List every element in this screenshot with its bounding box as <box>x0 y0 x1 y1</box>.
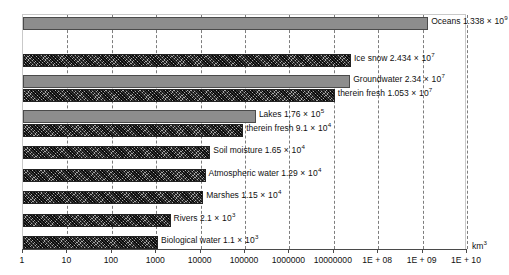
bar-value-label: Lakes 1.76 × 105 <box>259 108 324 121</box>
x-axis-tick <box>200 249 201 253</box>
bar-value-mantissa: 1.053 <box>387 88 408 98</box>
bar[interactable] <box>23 214 171 227</box>
bar-value-label: Ice snow 2.434 × 107 <box>354 52 435 65</box>
bar[interactable] <box>23 169 206 182</box>
x-axis-tick <box>377 249 378 253</box>
bar-value-label: Rivers 2.1 × 103 <box>174 212 236 225</box>
x-axis-tick <box>466 249 467 253</box>
x-axis-tick <box>288 249 289 253</box>
bar[interactable] <box>23 191 203 204</box>
gridline-10000000 <box>334 15 335 249</box>
x-axis-tick <box>155 249 156 253</box>
bar-value-exponent: 5 <box>321 107 324 114</box>
bar-value-mantissa: 9.1 <box>296 123 308 133</box>
bar-value-mantissa: 1.65 <box>265 145 282 155</box>
bar-value-exponent: 4 <box>318 166 321 173</box>
bar-value-label: Biological water 1.1 × 103 <box>161 234 258 247</box>
x-axis-tick-label: 1E + 08 <box>362 255 392 265</box>
multiplication-sign: × 10 <box>301 109 321 119</box>
x-axis-tick-label: 1E + 09 <box>407 255 437 265</box>
multiplication-sign: × 10 <box>212 213 232 223</box>
multiplication-sign: × 10 <box>484 16 504 26</box>
bar-category-name: therein fresh <box>246 123 293 133</box>
bar-value-mantissa: 1.338 <box>463 16 484 26</box>
bar-value-mantissa: 2.1 <box>200 213 212 223</box>
gridline-1E+10 <box>467 15 468 249</box>
bar-value-exponent: 4 <box>278 188 281 195</box>
x-axis-tick <box>22 249 23 253</box>
bar-value-label: therein fresh 1.053 × 107 <box>338 87 433 100</box>
bar[interactable] <box>23 236 158 249</box>
log-bar-chart: Oceans 1.338 × 109Ice snow 2.434 × 107Gr… <box>0 0 509 275</box>
gridline-1E+08 <box>378 15 379 249</box>
x-axis-tick-label: 1E + 10 <box>451 255 481 265</box>
bar-value-mantissa: 1.76 <box>284 109 301 119</box>
bar[interactable] <box>23 17 428 30</box>
bar[interactable] <box>23 146 210 159</box>
bar-category-name: Soil moisture <box>213 145 262 155</box>
bar-value-exponent: 4 <box>301 143 304 150</box>
bar-value-mantissa: 1.1 <box>223 235 235 245</box>
bar-value-label: Marshes 1.15 × 104 <box>206 189 281 202</box>
bar-value-label: Atmospheric water 1.29 × 104 <box>209 167 322 180</box>
bar-value-label: Soil moisture 1.65 × 104 <box>213 144 305 157</box>
multiplication-sign: × 10 <box>235 235 255 245</box>
unit-exponent: 3 <box>483 239 486 246</box>
unit-base: km <box>472 241 483 251</box>
multiplication-sign: × 10 <box>281 145 301 155</box>
x-axis-tick <box>111 249 112 253</box>
multiplication-sign: × 10 <box>258 190 278 200</box>
x-axis-unit-label: km3 <box>472 241 487 251</box>
x-axis-tick <box>422 249 423 253</box>
bar-value-exponent: 7 <box>431 51 434 58</box>
bar-value-mantissa: 2.434 <box>390 53 411 63</box>
bar-value-mantissa: 1.29 <box>281 168 298 178</box>
bar-category-name: Groundwater <box>353 74 402 84</box>
gridline-1E+09 <box>423 15 424 249</box>
bar[interactable] <box>23 89 335 102</box>
x-axis-tick-label: 1000000 <box>272 255 305 265</box>
bar-category-name: Rivers <box>174 213 198 223</box>
bar-value-mantissa: 2.34 <box>405 74 422 84</box>
x-axis-tick <box>244 249 245 253</box>
multiplication-sign: × 10 <box>298 168 318 178</box>
bar-category-name: Marshes <box>206 190 239 200</box>
bar-value-mantissa: 1.15 <box>241 190 258 200</box>
bar-value-exponent: 4 <box>328 121 331 128</box>
bar-value-exponent: 7 <box>429 86 432 93</box>
bar[interactable] <box>23 124 243 137</box>
bar-category-name: Biological water <box>161 235 221 245</box>
x-axis-tick-label: 100 <box>104 255 118 265</box>
bar[interactable] <box>23 54 351 67</box>
x-axis-tick-label: 100000 <box>230 255 259 265</box>
bar-category-name: Lakes <box>259 109 282 119</box>
x-axis-tick-label: 10 <box>62 255 72 265</box>
x-axis-tick <box>66 249 67 253</box>
bar-value-exponent: 3 <box>255 233 258 240</box>
x-axis-tick-label: 10000000 <box>314 255 352 265</box>
bar-value-label: Groundwater 2.34 × 107 <box>353 73 445 86</box>
bar-category-name: therein fresh <box>338 88 385 98</box>
bar[interactable] <box>23 110 256 123</box>
x-axis-tick-label: 10000 <box>188 255 212 265</box>
bar-category-name: Atmospheric water <box>209 168 279 178</box>
bar-category-name: Ice snow <box>354 53 388 63</box>
multiplication-sign: × 10 <box>421 74 441 84</box>
multiplication-sign: × 10 <box>409 88 429 98</box>
bar[interactable] <box>23 75 350 88</box>
bar-value-label: Oceans 1.338 × 109 <box>431 15 508 28</box>
plot-area: Oceans 1.338 × 109Ice snow 2.434 × 107Gr… <box>22 14 466 249</box>
bar-value-exponent: 3 <box>232 211 235 218</box>
bar-category-name: Oceans <box>431 16 460 26</box>
x-axis-tick <box>333 249 334 253</box>
x-axis-tick-label: 1 <box>20 255 25 265</box>
x-axis-tick-label: 1000 <box>146 255 165 265</box>
multiplication-sign: × 10 <box>411 53 431 63</box>
bar-value-exponent: 7 <box>441 72 444 79</box>
multiplication-sign: × 10 <box>308 123 328 133</box>
bar-value-exponent: 9 <box>504 14 507 21</box>
bar-value-label: therein fresh 9.1 × 104 <box>246 122 331 135</box>
